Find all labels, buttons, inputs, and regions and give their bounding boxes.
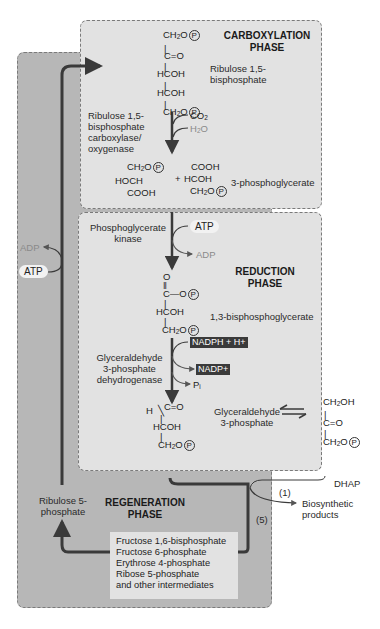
intermediates-box: Fructose 1,6-bisphosphate Fructose 6-pho… (110, 532, 238, 599)
nadph-input: NADPH + H+ (190, 337, 248, 348)
regeneration-phase-title: REGENERATION PHASE (105, 497, 185, 521)
reduction-phase-title: REDUCTION PHASE (230, 266, 300, 290)
atp-input-regen: ATP (19, 265, 48, 278)
rubp-label: Ribulose 1,5-bisphosphate (210, 63, 290, 85)
bpg-label: 1,3-bisphosphoglycerate (210, 311, 314, 322)
nadp-output: NADP+ (196, 364, 230, 375)
intermediate-item: Ribose 5-phosphate (116, 569, 238, 580)
intermediate-item: Erythrose 4-phosphate (116, 558, 238, 569)
dhap-label: DHAP (334, 478, 360, 489)
dhap-structure: CH2OH | C=O | CH2OP (323, 396, 360, 450)
branch-1-label: (1) (279, 487, 291, 498)
co2-input: CO2 (190, 110, 208, 124)
g3p-label: Glyceraldehyde 3-phosphate (212, 406, 282, 428)
gapdh-label: Glyceraldehyde 3-phosphate dehydrogenase (92, 352, 167, 385)
pi-output: Pi (193, 379, 201, 393)
intermediate-item: and other intermediates (116, 580, 238, 591)
intermediate-item: Fructose 1,6-bisphosphate (116, 536, 238, 547)
bpg-structure: O ‖ C—OP | HCOH | CH2OP (156, 271, 199, 338)
carboxylation-phase-title: CARBOXYLATION PHASE (222, 30, 312, 54)
rubisco-label: Ribulose 1,5-bisphosphate carboxylase/ o… (88, 110, 163, 154)
ru5p-label: Ribulose 5-phosphate (38, 495, 88, 517)
rubp-structure: CH2OP | C=O | HCOH | HCOH | CH2OP (163, 29, 200, 120)
g3p-structure: H╲C=O | HCOH | CH2OP (146, 405, 195, 453)
3pg-label: 3-phosphoglycerate (231, 177, 314, 188)
pga-right-structure: COOH HCOH CH2OP (184, 161, 227, 199)
adp-output-regen: ADP (20, 242, 40, 254)
pga-left-structure: CH2OP HOCH COOH (115, 161, 164, 199)
biosynthetic-products-label: Biosynthetic products (302, 498, 362, 520)
branch-5-label: (5) (256, 514, 268, 525)
intermediate-item: Fructose 6-phosphate (116, 547, 238, 558)
pgk-label: Phosphoglycerate kinase (88, 222, 168, 244)
adp-output-reduction: ADP (196, 249, 216, 261)
h2o-input: H2O (190, 123, 208, 137)
plus-sign: + (175, 173, 181, 185)
atp-input-reduction: ATP (190, 220, 219, 233)
